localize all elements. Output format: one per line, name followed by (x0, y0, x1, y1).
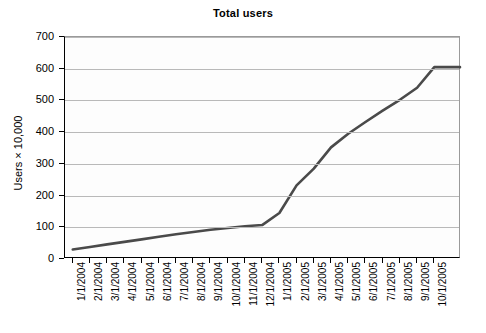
x-tick-label-2/1/2005: 2/1/2005 (300, 262, 311, 301)
x-axis-tick-labels: 1/1/20042/1/20043/1/20044/1/20045/1/2004… (0, 0, 486, 333)
x-tick-label-9/1/2004: 9/1/2004 (213, 262, 224, 301)
x-tick-label-11/1/2004: 11/1/2004 (248, 262, 259, 306)
x-tick-mark-19 (399, 258, 400, 263)
x-tick-mark-13 (296, 258, 297, 263)
x-tick-mark-6 (175, 258, 176, 263)
x-tick-label-9/1/2005: 9/1/2005 (420, 262, 431, 301)
x-tick-mark-14 (313, 258, 314, 263)
x-tick-mark-20 (416, 258, 417, 263)
x-tick-mark-16 (347, 258, 348, 263)
x-tick-label-7/1/2004: 7/1/2004 (179, 262, 190, 301)
x-tick-mark-9 (227, 258, 228, 263)
x-tick-label-2/1/2004: 2/1/2004 (93, 262, 104, 301)
x-tick-label-1/1/2005: 1/1/2005 (282, 262, 293, 301)
x-tick-label-1/1/2004: 1/1/2004 (76, 262, 87, 301)
x-tick-label-6/1/2005: 6/1/2005 (368, 262, 379, 301)
x-tick-mark-3 (123, 258, 124, 263)
x-tick-mark-10 (244, 258, 245, 263)
x-tick-label-3/1/2004: 3/1/2004 (110, 262, 121, 301)
x-tick-mark-18 (382, 258, 383, 263)
x-tick-label-5/1/2005: 5/1/2005 (351, 262, 362, 301)
x-tick-mark-15 (330, 258, 331, 263)
x-tick-label-6/1/2004: 6/1/2004 (162, 262, 173, 301)
x-tick-label-8/1/2005: 8/1/2005 (403, 262, 414, 301)
x-tick-label-10/1/2004: 10/1/2004 (231, 262, 242, 307)
x-tick-mark-4 (141, 258, 142, 263)
x-tick-mark-2 (106, 258, 107, 263)
x-tick-mark-21 (433, 258, 434, 263)
x-tick-label-4/1/2005: 4/1/2005 (334, 262, 345, 301)
x-tick-label-4/1/2004: 4/1/2004 (127, 262, 138, 301)
x-tick-mark-8 (209, 258, 210, 263)
x-tick-label-3/1/2005: 3/1/2005 (317, 262, 328, 301)
x-tick-label-7/1/2005: 7/1/2005 (386, 262, 397, 301)
x-tick-label-5/1/2004: 5/1/2004 (145, 262, 156, 301)
x-tick-mark-1 (89, 258, 90, 263)
x-tick-mark-0 (72, 258, 73, 263)
x-tick-label-8/1/2004: 8/1/2004 (196, 262, 207, 301)
x-tick-label-12/1/2004: 12/1/2004 (265, 262, 276, 307)
x-tick-mark-5 (158, 258, 159, 263)
x-tick-mark-17 (364, 258, 365, 263)
x-tick-mark-11 (261, 258, 262, 263)
x-tick-mark-12 (278, 258, 279, 263)
x-tick-label-10/1/2005: 10/1/2005 (437, 262, 448, 307)
chart-container: Total users Users × 10,000 0100200300400… (0, 0, 486, 333)
x-tick-mark-7 (192, 258, 193, 263)
